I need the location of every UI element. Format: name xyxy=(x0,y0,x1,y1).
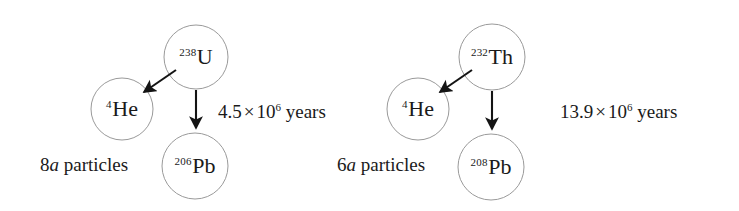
mass-number-4-right: 4 xyxy=(402,98,408,110)
half-life-base-u238: 10 xyxy=(256,101,275,122)
particle-count-number-u238: 8 xyxy=(40,154,50,175)
particle-count-u238: 8a particles xyxy=(40,155,128,174)
half-life-th232: 13.9×106 years xyxy=(560,102,677,121)
nuclide-label-th232: 232Th xyxy=(471,46,513,68)
mass-number-238: 238 xyxy=(179,46,196,58)
mass-number-4-left: 4 xyxy=(106,98,112,110)
alpha-symbol-th232: a xyxy=(347,154,357,175)
nuclide-label-pb206: 206Pb xyxy=(175,155,216,177)
nuclide-label-he4-left: 4He xyxy=(106,98,138,120)
particle-label-th232: particles xyxy=(361,154,425,175)
alpha-decay-arrow-u238 xyxy=(144,70,176,92)
half-life-exponent-th232: 6 xyxy=(627,101,633,113)
half-life-unit-u238: years xyxy=(286,101,326,122)
nuclide-label-pb208: 208Pb xyxy=(471,156,512,178)
mass-number-208: 208 xyxy=(471,156,488,168)
mass-number-206: 206 xyxy=(175,155,192,167)
alpha-decay-arrow-th232 xyxy=(440,70,472,92)
particle-count-th232: 6a particles xyxy=(337,155,425,174)
half-life-base-th232: 10 xyxy=(608,101,627,122)
half-life-coefficient-u238: 4.5 xyxy=(218,101,242,122)
half-life-unit-th232: years xyxy=(637,101,677,122)
element-symbol-he-right: He xyxy=(408,96,434,121)
element-symbol-u: U xyxy=(197,44,213,69)
multiplication-sign-th232: × xyxy=(593,101,608,122)
alpha-symbol-u238: a xyxy=(50,154,60,175)
half-life-exponent-u238: 6 xyxy=(275,101,281,113)
element-symbol-pb-right: Pb xyxy=(488,154,511,179)
nuclide-label-u238: 238U xyxy=(179,46,213,68)
half-life-u238: 4.5×106 years xyxy=(218,102,326,121)
half-life-coefficient-th232: 13.9 xyxy=(560,101,593,122)
element-symbol-pb-left: Pb xyxy=(192,153,215,178)
particle-count-number-th232: 6 xyxy=(337,154,347,175)
multiplication-sign-u238: × xyxy=(242,101,257,122)
particle-label-u238: particles xyxy=(64,154,128,175)
decay-diagram: 238U 4He 206Pb 4.5×106 years 8a particle… xyxy=(0,0,739,211)
mass-number-232: 232 xyxy=(471,46,488,58)
element-symbol-he-left: He xyxy=(112,96,138,121)
element-symbol-th: Th xyxy=(489,44,513,69)
nuclide-label-he4-right: 4He xyxy=(402,98,434,120)
